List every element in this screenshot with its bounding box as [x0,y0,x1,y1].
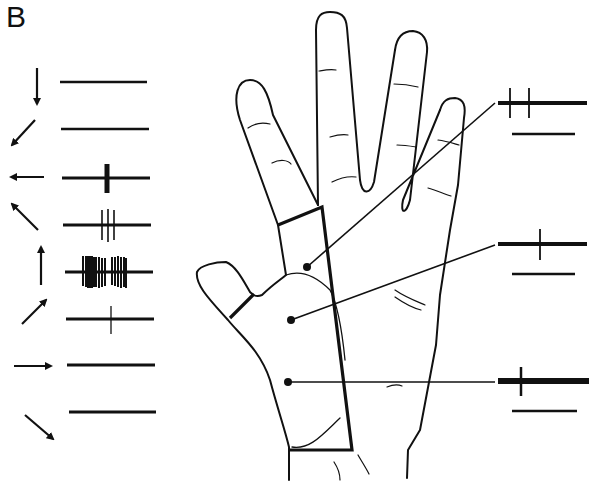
arrow-down-right-icon [25,415,53,439]
thumb-and-palm-outline [197,225,289,480]
wrist-crease [292,418,340,447]
figure-canvas [0,0,591,485]
direction-spike-trains [60,82,156,412]
site-spike-traces [498,88,589,411]
thumb-boundary-line [230,294,254,318]
arrow-up-right-icon [22,300,46,324]
site-proximal-index [303,103,495,271]
spike-trace-up [65,256,153,288]
finger-creases [248,70,459,480]
middle-finger-outline [316,12,395,205]
site-proximal-palm [284,378,495,386]
spike-trace-left [62,164,150,193]
direction-arrows [11,68,53,439]
index-finger-outline [236,80,318,225]
spike-trace-up-left [63,209,151,242]
arrow-down-left-icon [12,120,35,145]
arrow-up-left-icon [12,204,38,230]
stimulus-sites [284,103,495,386]
trace-proximal-index [498,88,587,134]
spike-trace-up-right [66,306,154,334]
trace-proximal-palm [498,367,589,411]
trace-thenar [498,229,587,274]
